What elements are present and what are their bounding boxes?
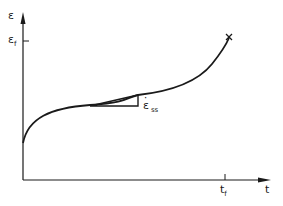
slope-dot: · [144, 93, 147, 103]
x-axis-arrow-icon [258, 178, 271, 183]
x-axis-label: t [265, 184, 269, 195]
slope-label: ·εss [143, 100, 158, 111]
y-axis-label: ε [8, 10, 14, 21]
y-axis-arrow-icon [21, 12, 26, 24]
slope-triangle [90, 95, 138, 106]
t-f-label: tf [220, 184, 227, 195]
t-f-sub: f [224, 190, 226, 198]
eps-f-label: εf [8, 34, 16, 45]
slope-eps-wrap: ·ε [143, 99, 149, 112]
creep-curve [23, 38, 229, 143]
creep-curve-diagram [0, 0, 283, 206]
slope-eps-sub: ss [151, 106, 158, 114]
